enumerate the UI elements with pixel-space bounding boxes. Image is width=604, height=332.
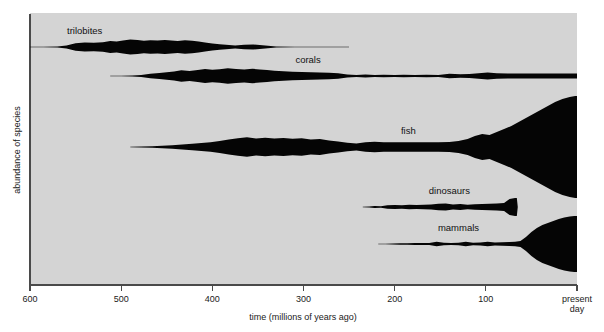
band-label-trilobites: trilobites	[67, 25, 103, 36]
x-tick-label-200: 200	[387, 294, 402, 304]
spindle-band-trilobites	[30, 40, 349, 55]
x-tick-label-100: 100	[478, 294, 493, 304]
taxon-band-labels: trilobitescoralsfishdinosaursmammals	[67, 25, 479, 233]
y-axis-title: abundance of species	[12, 106, 22, 194]
band-label-dinosaurs: dinosaurs	[429, 185, 470, 196]
x-tick-label-400: 400	[205, 294, 220, 304]
x-axis-title: time (millions of years ago)	[249, 312, 357, 322]
x-tick-label-300: 300	[296, 294, 311, 304]
taxon-bands	[30, 40, 577, 273]
x-axis-ticks: 600500400300200100presentday	[22, 285, 592, 314]
band-label-corals: corals	[295, 54, 321, 65]
spindle-band-fish	[130, 96, 577, 198]
x-tick-label-0: presentday	[562, 294, 593, 314]
spindle-band-corals	[110, 68, 577, 84]
chart-canvas: 600500400300200100presentday trilobitesc…	[0, 0, 604, 332]
spindle-band-dinosaurs	[363, 198, 518, 216]
x-tick-label-500: 500	[114, 294, 129, 304]
band-label-mammals: mammals	[438, 222, 479, 233]
x-tick-label-600: 600	[22, 294, 37, 304]
band-label-fish: fish	[401, 125, 416, 136]
spindle-diagram-figure: 600500400300200100presentday trilobitesc…	[0, 0, 604, 332]
